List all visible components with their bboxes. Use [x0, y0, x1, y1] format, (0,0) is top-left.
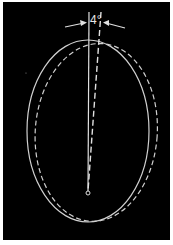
tilted-axis-line — [88, 12, 101, 191]
pivot-point — [86, 191, 90, 195]
speck — [25, 72, 26, 73]
ellipse-rotation-diagram: 4° — [0, 0, 173, 245]
vertical-axis-line — [88, 12, 89, 191]
right-arrow-icon — [103, 20, 125, 28]
left-arrow-icon — [65, 20, 87, 27]
rotated-ellipse — [29, 39, 163, 225]
angle-label: 4° — [90, 13, 102, 27]
